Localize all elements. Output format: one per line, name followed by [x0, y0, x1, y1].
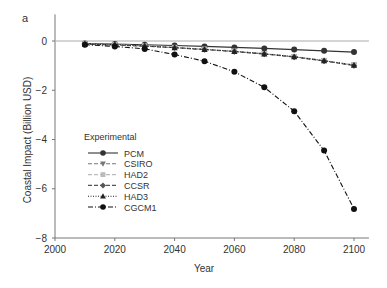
- marker-circle: [231, 69, 237, 75]
- marker-diamond: [100, 182, 106, 188]
- marker-square: [101, 172, 106, 177]
- marker-circle: [172, 52, 178, 58]
- marker-circle: [82, 42, 88, 48]
- marker-circle: [100, 150, 106, 156]
- legend-label: PCM: [124, 149, 144, 159]
- marker-circle: [202, 58, 208, 64]
- x-tick-label: 2020: [104, 244, 127, 255]
- y-tick-label: −6: [36, 183, 48, 194]
- coastal-impact-chart: a 0−2−4−6−8200020202040206020802100 Expe…: [0, 0, 387, 288]
- marker-circle: [291, 47, 297, 53]
- y-axis-label: Coastal Impact (Billion USD): [22, 77, 33, 204]
- marker-circle: [351, 49, 357, 55]
- marker-circle: [351, 206, 357, 212]
- marker-circle: [261, 45, 267, 51]
- x-tick-label: 2100: [343, 244, 366, 255]
- legend-item-ccsr: CCSR: [88, 181, 150, 191]
- legend-item-had2: HAD2: [88, 170, 148, 180]
- panel-label: a: [22, 12, 29, 24]
- x-axis-label: Year: [194, 263, 215, 274]
- y-tick-label: 0: [41, 36, 47, 47]
- x-tick-label: 2040: [163, 244, 186, 255]
- legend-label: CSIRO: [124, 159, 153, 169]
- marker-circle: [142, 46, 148, 52]
- legend-item-cgcm1: CGCM1: [88, 203, 157, 213]
- legend: ExperimentalPCMCSIROHAD2CCSRHAD3CGCM1: [84, 132, 157, 213]
- x-tick-label: 2060: [223, 244, 246, 255]
- legend-title: Experimental: [84, 132, 137, 142]
- marker-circle: [112, 43, 118, 49]
- y-tick-label: −8: [36, 233, 48, 244]
- series-pcm: [82, 40, 357, 55]
- legend-item-had3: HAD3: [88, 192, 148, 202]
- y-tick-label: −4: [36, 134, 48, 145]
- marker-circle: [321, 148, 327, 154]
- legend-label: CGCM1: [124, 203, 157, 213]
- marker-circle: [291, 108, 297, 114]
- x-tick-label: 2000: [44, 244, 67, 255]
- legend-item-csiro: CSIRO: [88, 159, 153, 169]
- marker-circle: [261, 84, 267, 90]
- marker-circle: [100, 204, 106, 210]
- legend-item-pcm: PCM: [88, 149, 144, 159]
- legend-label: CCSR: [124, 181, 150, 191]
- legend-label: HAD3: [124, 192, 148, 202]
- x-tick-label: 2080: [283, 244, 306, 255]
- y-tick-label: −2: [36, 85, 48, 96]
- series-had3: [82, 41, 357, 68]
- legend-label: HAD2: [124, 170, 148, 180]
- marker-circle: [321, 48, 327, 54]
